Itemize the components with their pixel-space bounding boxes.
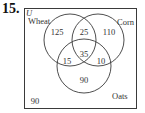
oats-label: Oats	[112, 92, 128, 101]
region-oats-only: 90	[80, 76, 89, 85]
corn-label: Corn	[117, 18, 134, 27]
region-outside: 90	[31, 97, 40, 106]
region-corn-only: 110	[103, 28, 115, 37]
region-all-three: 35	[80, 50, 89, 59]
region-wheat-oats: 15	[63, 57, 72, 66]
wheat-label: Wheat	[28, 17, 50, 26]
region-wheat-only: 125	[51, 28, 64, 37]
oats-circle	[57, 39, 111, 93]
region-corn-oats: 10	[97, 57, 106, 66]
region-wheat-corn: 25	[80, 28, 89, 37]
